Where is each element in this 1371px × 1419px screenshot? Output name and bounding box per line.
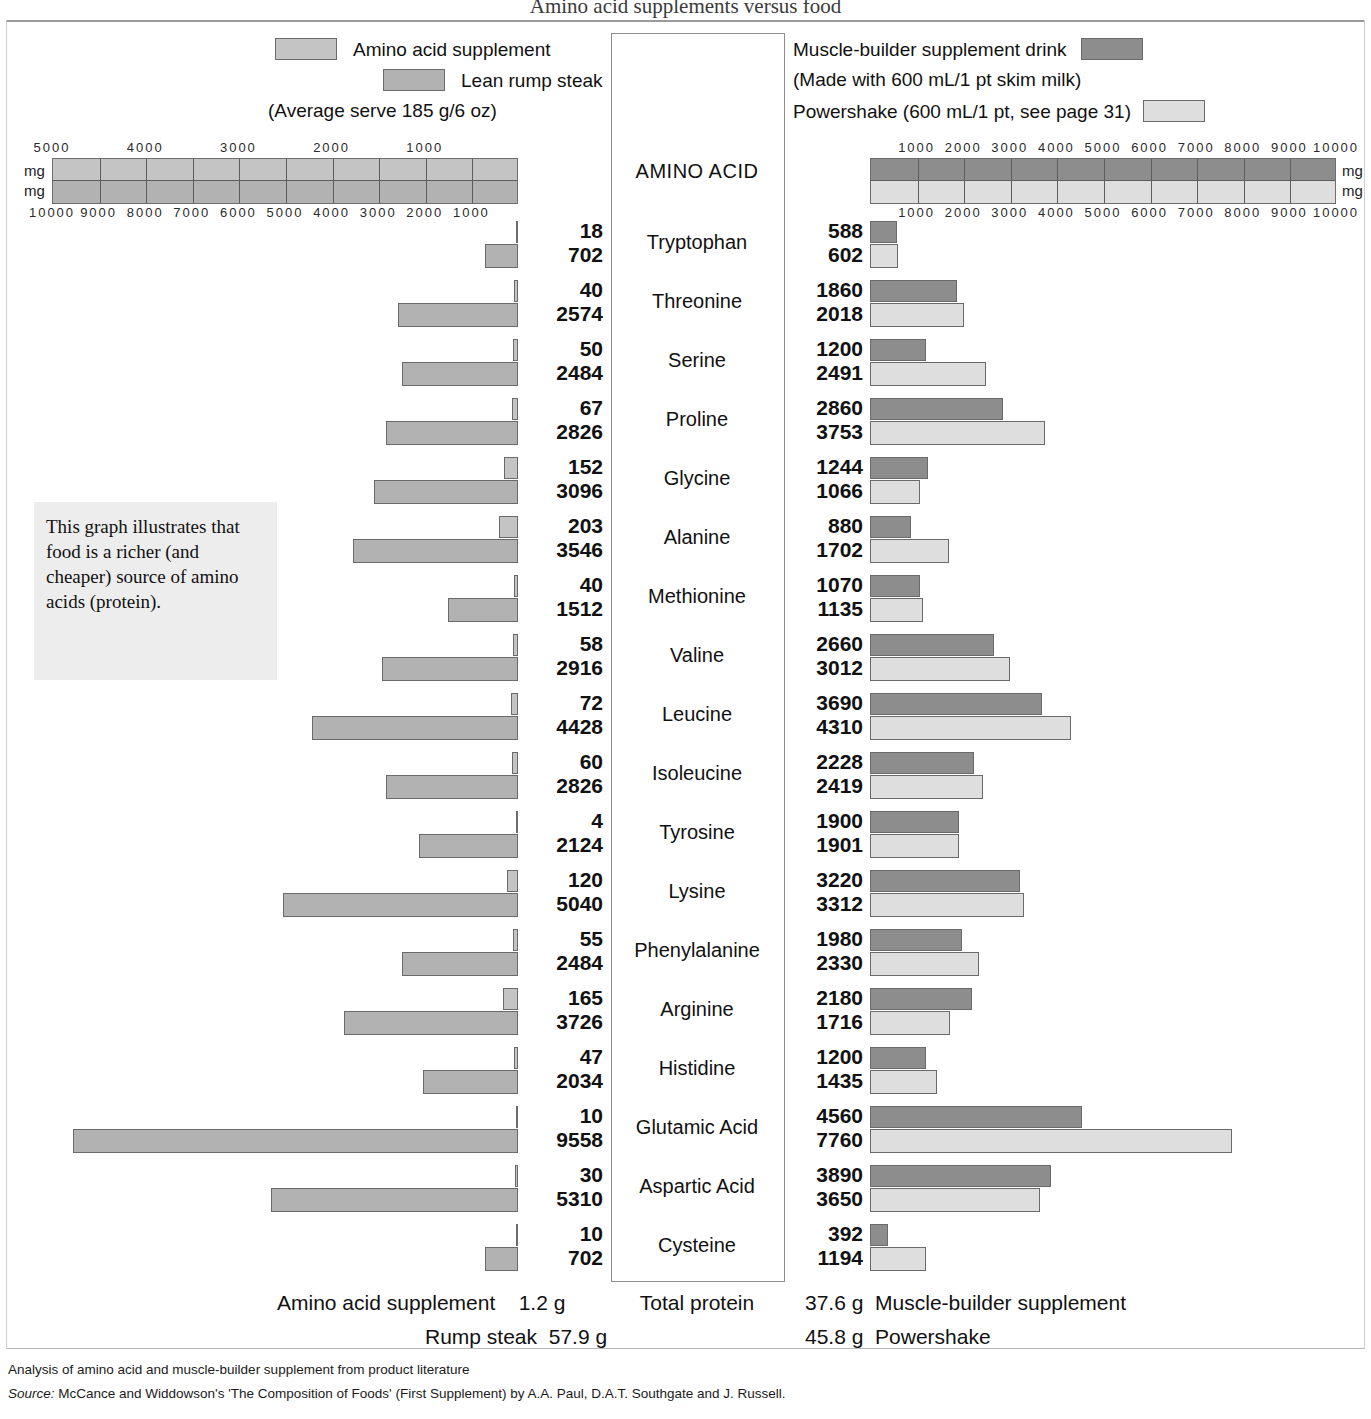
left-bar-group — [52, 805, 518, 864]
table-row: 18602018 — [783, 274, 1371, 333]
bar-powershake — [870, 1188, 1040, 1212]
value-label: 30 — [519, 1163, 603, 1187]
left-bar-group — [52, 923, 518, 982]
value-label: 55 — [519, 927, 603, 951]
value-label: 2826 — [519, 420, 603, 444]
value-label: 152 — [519, 455, 603, 479]
axis-tick-label: 10000 — [1313, 140, 1359, 155]
value-label: 58 — [519, 632, 603, 656]
table-row: 18702 — [0, 215, 611, 274]
axis-gridline — [1151, 159, 1152, 203]
table-row: 1523096 — [0, 451, 611, 510]
legend-amino-acid-supplement: Amino acid supplement — [275, 38, 551, 61]
table-row: 8801702 — [783, 510, 1371, 569]
axis-gridline — [379, 159, 380, 203]
axis-tick-label: 6000 — [1131, 140, 1168, 155]
bar-lean-rump-steak — [344, 1011, 518, 1035]
value-label: 3753 — [783, 420, 863, 444]
left-bar-group — [52, 864, 518, 923]
bar-muscle-builder-supplement-drink — [870, 634, 994, 656]
amino-acid-name: Tryptophan — [611, 231, 783, 254]
value-label: 203 — [519, 514, 603, 538]
right-bar-group — [870, 333, 1336, 392]
value-label: 2916 — [519, 656, 603, 680]
axis-tick-label: 5000 — [34, 140, 71, 155]
left-unit-label-top: mg — [24, 162, 45, 179]
table-row: 38903650 — [783, 1159, 1371, 1218]
table-row: Arginine — [611, 982, 783, 1041]
left-axis-top-ticks: 50004000300020001000 — [52, 140, 518, 156]
value-label: 1512 — [519, 597, 603, 621]
value-label: 5040 — [519, 892, 603, 916]
bar-lean-rump-steak — [448, 598, 518, 622]
value-label: 10 — [519, 1104, 603, 1128]
table-row: 672826 — [0, 392, 611, 451]
value-label: 2660 — [783, 632, 863, 656]
right-bar-group — [870, 569, 1336, 628]
legend-label-powershake: Powershake (600 mL/1 pt, see page 31) — [793, 101, 1131, 122]
bar-amino-acid-supplement — [516, 1224, 518, 1246]
axis-gridline — [1057, 159, 1058, 203]
legend-swatch-powershake — [1143, 100, 1205, 122]
bar-powershake — [870, 1011, 950, 1035]
value-label: 1980 — [783, 927, 863, 951]
bar-muscle-builder-supplement-drink — [870, 457, 928, 479]
total-right-row-2: 45.8 g Powershake — [805, 1325, 991, 1349]
table-row: 502484 — [0, 333, 611, 392]
right-bar-group — [870, 628, 1336, 687]
table-row: Tryptophan — [611, 215, 783, 274]
right-bar-group — [870, 1218, 1336, 1277]
value-label: 72 — [519, 691, 603, 715]
bar-amino-acid-supplement — [514, 1047, 518, 1069]
right-bar-group — [870, 510, 1336, 569]
axis-tick-label: 2000 — [313, 140, 350, 155]
table-row: 42124 — [0, 805, 611, 864]
left-bar-group — [52, 451, 518, 510]
axis-tick-label: 4000 — [1038, 140, 1075, 155]
table-row: Methionine — [611, 569, 783, 628]
value-label: 2228 — [783, 750, 863, 774]
value-label: 18 — [519, 219, 603, 243]
value-label: 4 — [519, 809, 603, 833]
left-bar-group — [52, 1100, 518, 1159]
table-row: 305310 — [0, 1159, 611, 1218]
left-unit-label-bottom: mg — [24, 182, 45, 199]
left-scale-bottom-band — [53, 181, 517, 203]
value-label: 1716 — [783, 1010, 863, 1034]
table-row: 401512 — [0, 569, 611, 628]
total-right-value-2: 45.8 g — [805, 1325, 863, 1348]
bar-muscle-builder-supplement-drink — [870, 870, 1020, 892]
value-label: 3312 — [783, 892, 863, 916]
value-label: 602 — [783, 243, 863, 267]
footnote-source-prefix: Source: — [8, 1386, 55, 1401]
table-row: 19802330 — [783, 923, 1371, 982]
table-row: Proline — [611, 392, 783, 451]
bar-powershake — [870, 1247, 926, 1271]
table-row: Serine — [611, 333, 783, 392]
total-right-label-2: Powershake — [875, 1325, 991, 1348]
amino-acid-name: Serine — [611, 349, 783, 372]
bar-powershake — [870, 1070, 937, 1094]
bar-amino-acid-supplement — [513, 929, 518, 951]
value-label: 1200 — [783, 337, 863, 361]
bar-powershake — [870, 539, 949, 563]
total-left-value-1: 1.2 g — [519, 1291, 566, 1314]
bar-lean-rump-steak — [374, 480, 518, 504]
total-left-label-1: Amino acid supplement — [277, 1291, 495, 1314]
bar-muscle-builder-supplement-drink — [870, 1165, 1051, 1187]
bar-muscle-builder-supplement-drink — [870, 988, 972, 1010]
bar-amino-acid-supplement — [512, 752, 518, 774]
value-label: 1900 — [783, 809, 863, 833]
total-left-value-2: 57.9 g — [549, 1325, 607, 1348]
bar-amino-acid-supplement — [507, 870, 518, 892]
bar-powershake — [870, 244, 898, 268]
axis-gridline — [100, 159, 101, 203]
table-row: 109558 — [0, 1100, 611, 1159]
bar-amino-acid-supplement — [511, 693, 518, 715]
table-row: Histidine — [611, 1041, 783, 1100]
total-left-row-1: Amino acid supplement 1.2 g — [277, 1291, 565, 1315]
table-row: 402574 — [0, 274, 611, 333]
table-row: 582916 — [0, 628, 611, 687]
table-row: Cysteine — [611, 1218, 783, 1277]
bar-muscle-builder-supplement-drink — [870, 1106, 1082, 1128]
